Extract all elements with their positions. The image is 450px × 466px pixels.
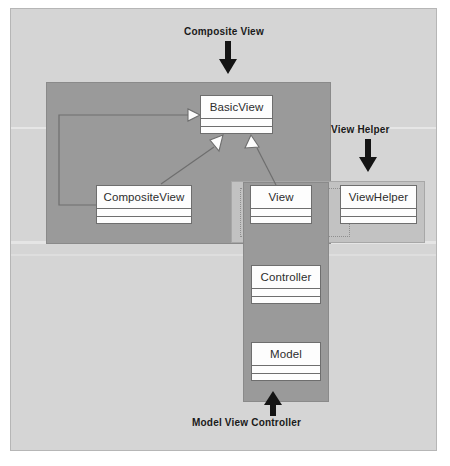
uml-operations-compartment [341,217,416,224]
uml-class-name: ViewHelper [341,186,416,208]
uml-class-name: View [251,186,311,208]
uml-class-compositeview[interactable]: CompositeView [96,185,192,224]
annotation-label-composite-view: Composite View [184,26,264,37]
callout-arrow-down-icon [358,139,378,173]
callout-arrow-up-icon [263,391,283,416]
callout-arrow-down-icon [218,41,238,75]
uml-class-name: BasicView [201,96,272,118]
annotation-label-model-view-controller: Model View Controller [192,417,301,428]
uml-operations-compartment [252,374,320,381]
annotation-label-view-helper: View Helper [331,124,390,135]
uml-operations-compartment [252,297,320,304]
uml-operations-compartment [201,127,272,134]
uml-class-view[interactable]: View [250,185,312,224]
uml-class-name: CompositeView [97,186,191,208]
diagram-page: BasicView CompositeView View ViewHelper [0,0,450,466]
uml-class-basicview[interactable]: BasicView [200,95,273,134]
uml-class-controller[interactable]: Controller [251,265,321,304]
uml-class-model[interactable]: Model [251,342,321,381]
uml-class-viewhelper[interactable]: ViewHelper [340,185,417,224]
uml-operations-compartment [251,217,311,224]
uml-operations-compartment [97,217,191,224]
scan-artifact-band [11,254,436,256]
uml-class-name: Controller [252,266,320,288]
uml-class-name: Model [252,343,320,365]
